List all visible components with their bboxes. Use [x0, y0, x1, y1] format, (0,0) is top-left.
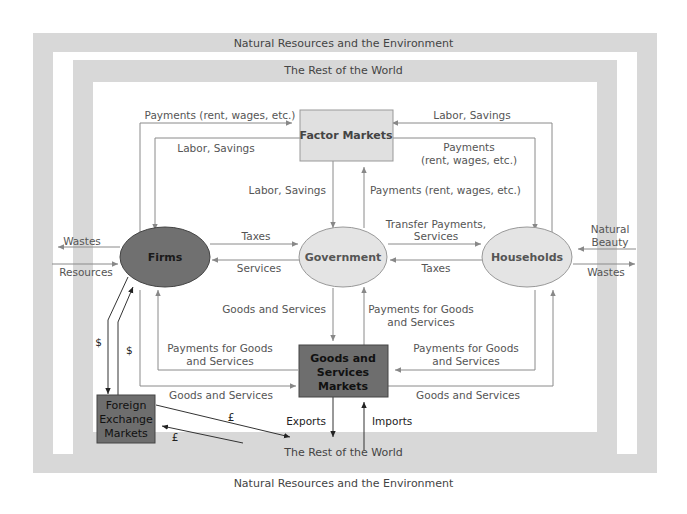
- circular-flow-diagram: Factor Markets Firms Government Househol…: [0, 0, 687, 514]
- label-markets-firms-payments-1: Payments for Goods: [167, 342, 273, 354]
- label-households-wastes: Wastes: [587, 266, 625, 278]
- goods-markets-line2: Services: [317, 366, 370, 379]
- label-factor-households-payments-2: (rent, wages, etc.): [421, 154, 517, 166]
- flow-fx-to-firms-dollars: [118, 287, 133, 397]
- label-gov-markets-goods: Goods and Services: [222, 303, 326, 315]
- label-households-markets-payments-1: Payments for Goods: [413, 342, 519, 354]
- label-exports: Exports: [286, 415, 326, 427]
- label-dollar-in: $: [126, 344, 133, 356]
- fx-markets-line2: Exchange: [99, 413, 153, 426]
- households-label: Households: [491, 251, 564, 264]
- label-firms-wastes: Wastes: [63, 235, 101, 247]
- label-gov-households-transfer-1: Transfer Payments,: [385, 218, 486, 230]
- factor-markets-label: Factor Markets: [300, 129, 393, 142]
- label-dollar-out: $: [95, 336, 102, 348]
- label-households-markets-payments-2: and Services: [432, 355, 499, 367]
- government-label: Government: [305, 251, 381, 264]
- goods-markets-line3: Markets: [318, 380, 369, 393]
- label-markets-firms-payments-2: and Services: [186, 355, 253, 367]
- label-resources: Resources: [59, 266, 113, 278]
- label-households-gov-taxes: Taxes: [421, 262, 451, 274]
- label-factor-government-labor: Labor, Savings: [249, 184, 326, 196]
- label-pound-in: £: [172, 431, 179, 443]
- label-factor-households-payments-1: Payments: [443, 141, 494, 153]
- label-pound-out: £: [228, 411, 235, 423]
- label-imports: Imports: [372, 415, 412, 427]
- label-factor-firms-labor: Labor, Savings: [177, 142, 254, 154]
- goods-markets-line1: Goods and: [310, 352, 376, 365]
- label-firms-factor-payments: Payments (rent, wages, etc.): [145, 109, 296, 121]
- label-government-factor-payments: Payments (rent, wages, etc.): [370, 184, 521, 196]
- label-gov-firms-services: Services: [237, 262, 281, 274]
- label-markets-households-goods: Goods and Services: [416, 389, 520, 401]
- label-markets-gov-payments-1: Payments for Goods: [368, 303, 474, 315]
- label-natural-beauty-2: Beauty: [591, 236, 628, 248]
- label-households-factor-labor: Labor, Savings: [433, 109, 510, 121]
- label-firms-gov-taxes: Taxes: [241, 230, 271, 242]
- label-natural-beauty-1: Natural: [591, 223, 630, 235]
- label-firms-markets-goods: Goods and Services: [169, 389, 273, 401]
- label-gov-households-transfer-2: Services: [414, 230, 458, 242]
- fx-markets-line1: Foreign: [106, 399, 147, 412]
- label-markets-gov-payments-2: and Services: [387, 316, 454, 328]
- firms-label: Firms: [148, 251, 183, 264]
- fx-markets-line3: Markets: [104, 427, 148, 440]
